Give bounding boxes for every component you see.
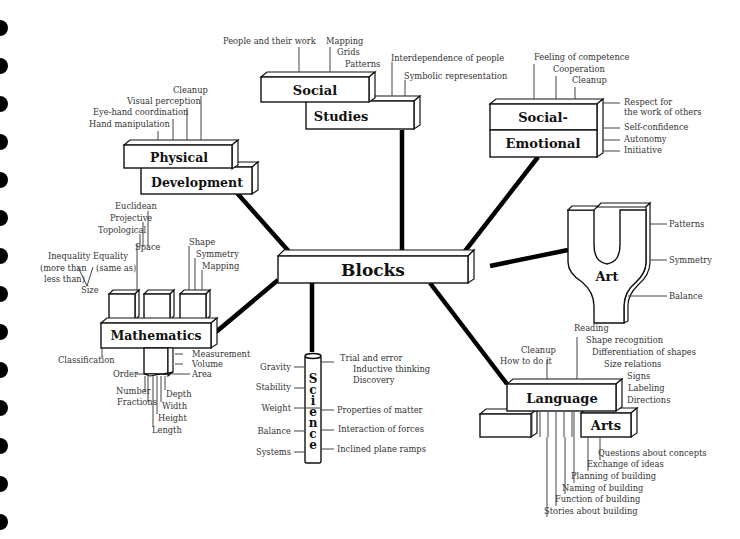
label-signs: Signs: [627, 371, 650, 381]
label-stability: Stability: [256, 382, 292, 392]
binder-holes: [0, 20, 8, 530]
physical-title-2: Development: [151, 175, 243, 190]
block-side-face: [597, 99, 603, 157]
label-equality: Equality: [93, 251, 128, 261]
spoke-physical: [237, 193, 292, 255]
label-less-than: less than): [44, 274, 85, 284]
binder-hole-icon: [0, 286, 8, 302]
social-emotional-title-2: Emotional: [506, 136, 581, 151]
label-inequality: Inequality: [48, 251, 91, 261]
label-differentiation-of-shapes: Differentiation of shapes: [592, 347, 696, 357]
label-cleanup: Cleanup: [173, 85, 208, 95]
block-side-face: [468, 250, 474, 283]
label-inclined-plane-ramps: Inclined plane ramps: [337, 444, 426, 454]
label-interaction-of-forces: Interaction of forces: [338, 424, 424, 434]
node-language-arts: Arts Language Reading Shape recognition …: [480, 323, 707, 517]
label-visual-perception: Visual perception: [126, 96, 201, 106]
label-symmetry: Symmetry: [196, 249, 239, 259]
label-shape-recognition: Shape recognition: [586, 335, 664, 345]
label-directions: Directions: [627, 395, 670, 405]
label-depth: Depth: [166, 389, 192, 399]
block-side-face: [232, 140, 238, 169]
block-top-face: [490, 99, 603, 104]
label-symbolic-representation: Symbolic representation: [404, 71, 508, 81]
social-studies-title-2: Studies: [314, 109, 368, 124]
binder-hole-icon: [0, 438, 8, 454]
block-top-face: [124, 140, 238, 145]
spoke-art: [490, 250, 568, 266]
label-cleanup: Cleanup: [521, 345, 556, 355]
label-feeling-of-competence: Feeling of competence: [534, 52, 629, 62]
spoke-mathematics: [216, 280, 278, 332]
block-side-face: [252, 162, 258, 194]
label-projective: Projective: [110, 213, 152, 223]
block-side-face: [414, 96, 420, 129]
node-art: Art Patterns Symmetry Balance: [568, 203, 712, 323]
center-title: Blocks: [341, 260, 405, 280]
label-classification: Classification: [58, 355, 115, 365]
label-autonomy: Autonomy: [623, 134, 667, 144]
label-discovery: Discovery: [353, 375, 395, 385]
language-arts-title-2: Arts: [590, 418, 621, 433]
block-side-face: [369, 72, 375, 102]
label-how-to-do-it: How to do it: [500, 356, 553, 366]
label-cooperation: Cooperation: [553, 64, 605, 74]
label-initiative: Initiative: [624, 145, 662, 155]
binder-hole-icon: [0, 248, 8, 264]
label-interdependence: Interdependence of people: [391, 53, 504, 63]
blocks-concept-map: Blocks Social Studies People and their w…: [0, 0, 740, 539]
mathematics-title: Mathematics: [110, 328, 201, 343]
label-number: Number: [116, 386, 151, 396]
binder-hole-icon: [0, 134, 8, 150]
label-length: Length: [152, 425, 182, 435]
binder-hole-icon: [0, 96, 8, 112]
label-volume: Volume: [191, 359, 223, 369]
label-self-confidence: Self-confidence: [624, 122, 689, 132]
label-systems: Systems: [256, 447, 291, 457]
label-measurement: Measurement: [192, 349, 251, 359]
label-function-of-building: Function of building: [555, 494, 641, 504]
block-top-face: [261, 72, 375, 77]
language-arts-title-1: Language: [526, 391, 597, 406]
label-balance: Balance: [669, 291, 703, 301]
binder-hole-icon: [0, 172, 8, 188]
label-area: Area: [191, 369, 212, 379]
label-properties-of-matter: Properties of matter: [337, 405, 423, 415]
label-space: Space: [135, 242, 161, 252]
label-cleanup: Cleanup: [572, 75, 607, 85]
label-symmetry: Symmetry: [669, 255, 712, 265]
label-order: Order: [113, 369, 138, 379]
binder-hole-icon: [0, 20, 8, 36]
center-node-blocks: Blocks: [278, 250, 474, 283]
label-reading: Reading: [574, 323, 609, 333]
label-trial-and-error: Trial and error: [340, 353, 402, 363]
label-euclidean: Euclidean: [115, 201, 158, 211]
block-top-face: [278, 250, 474, 256]
binder-hole-icon: [0, 210, 8, 226]
label-width: Width: [162, 401, 188, 411]
spoke-language: [430, 283, 507, 384]
label-size: Size: [81, 285, 99, 295]
label-people-and-their-work: People and their work: [223, 36, 317, 46]
art-fork-shape: [568, 210, 646, 323]
label-patterns: Patterns: [669, 219, 704, 229]
label-inductive-thinking: Inductive thinking: [353, 364, 431, 374]
label-gravity: Gravity: [260, 362, 291, 372]
label-questions-about-concepts: Questions about concepts: [598, 448, 707, 458]
binder-hole-icon: [0, 400, 8, 416]
label-shape: Shape: [189, 237, 215, 247]
social-studies-title-1: Social: [293, 83, 337, 98]
label-respect-1: Respect for: [624, 97, 672, 107]
binder-hole-icon: [0, 514, 8, 530]
binder-hole-icon: [0, 58, 8, 74]
label-mapping: Mapping: [326, 36, 364, 46]
label-exchange-of-ideas: Exchange of ideas: [587, 459, 664, 469]
label-respect-2: the work of others: [624, 107, 701, 117]
social-emotional-title-1: Social-: [518, 110, 568, 125]
label-planning-of-building: Planning of building: [571, 471, 657, 481]
label-more-than: (more than: [40, 263, 87, 273]
label-same-as: (same as): [96, 263, 136, 273]
node-social-emotional: Social- Emotional Feeling of competence …: [490, 52, 701, 157]
label-mapping: Mapping: [202, 261, 240, 271]
label-fractions: Fractions: [117, 397, 157, 407]
